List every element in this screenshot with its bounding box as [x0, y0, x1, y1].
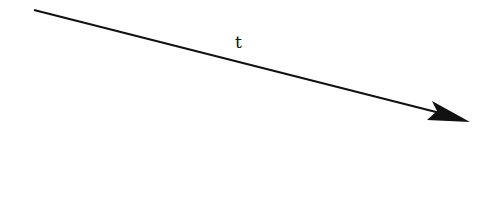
arrow-shaft	[34, 10, 440, 113]
diagram-canvas: t	[0, 0, 487, 216]
arrow-label: t	[235, 32, 242, 52]
arrow-diagram	[0, 0, 487, 216]
